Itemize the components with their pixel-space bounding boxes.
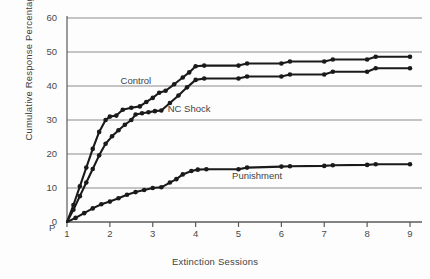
x-tick-label: 7 [316, 228, 332, 239]
series-label-nc-shock: NC Shock [168, 103, 211, 114]
x-tick-label: 3 [145, 228, 161, 239]
y-axis-label: Cumulative Response Percentage [23, 0, 34, 156]
x-tick-label: 5 [231, 228, 247, 239]
y-tick-label: 30 [33, 114, 57, 125]
y-tick-label: 50 [33, 46, 57, 57]
y-tick-label: 40 [33, 80, 57, 91]
gridlines [67, 18, 422, 188]
y-tick-label: 20 [33, 148, 57, 159]
series-label-control: Control [121, 75, 152, 86]
x-tick-label: 4 [188, 228, 204, 239]
x-tick-label: 6 [273, 228, 289, 239]
series-label-punishment: Punishment [232, 170, 282, 181]
chart-figure: Cumulative Response Percentage Extinctio… [0, 0, 430, 279]
x-tick-label: 9 [402, 228, 418, 239]
axis-lines [67, 16, 422, 222]
x-tick-label: 8 [359, 228, 375, 239]
x-tick-label: 1 [59, 228, 75, 239]
x-axis-label: Extinction Sessions [0, 256, 430, 267]
x-tick-label: 2 [102, 228, 118, 239]
p-origin-label: P [49, 222, 55, 233]
y-tick-label: 60 [33, 12, 57, 23]
y-tick-label: 10 [33, 182, 57, 193]
x-tick-marks [67, 222, 410, 227]
